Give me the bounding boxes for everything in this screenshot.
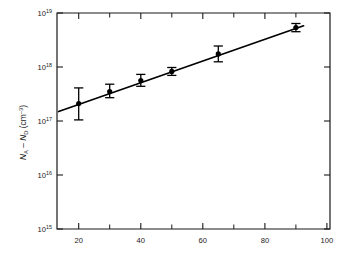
- chart-background: [0, 0, 350, 257]
- x-tick-label-100: 100: [321, 236, 334, 245]
- figure-container: 1019 1018 1017 1016 1015 NA – ND (cm–3): [0, 0, 350, 257]
- x-tick-label-60: 60: [199, 236, 207, 245]
- x-tick-label-40: 40: [137, 236, 145, 245]
- chart-svg: 1019 1018 1017 1016 1015 NA – ND (cm–3): [0, 0, 350, 257]
- x-tick-label-80: 80: [261, 236, 269, 245]
- x-tick-label-20: 20: [74, 236, 82, 245]
